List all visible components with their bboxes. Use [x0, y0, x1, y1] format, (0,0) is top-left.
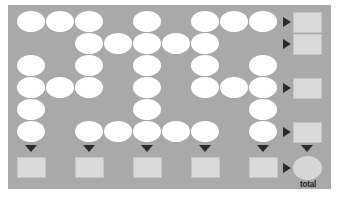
column-output-box [17, 157, 46, 178]
grid-oval [17, 55, 45, 76]
grid-oval [162, 121, 190, 142]
down-arrow-icon [199, 145, 211, 152]
column-output-box [75, 157, 104, 178]
row-output-box [293, 34, 322, 55]
total-oval [293, 156, 322, 180]
down-arrow-icon [83, 145, 95, 152]
grid-oval [17, 121, 45, 142]
grid-oval [249, 11, 277, 32]
right-arrow-icon [283, 163, 291, 173]
right-arrow-icon [283, 83, 291, 93]
down-arrow-icon [25, 145, 37, 152]
grid-oval [249, 99, 277, 120]
right-arrow-icon [283, 17, 291, 27]
grid-oval [17, 11, 45, 32]
grid-oval [75, 77, 103, 98]
grid-oval [191, 33, 219, 54]
down-arrow-icon [301, 145, 313, 152]
grid-oval [133, 55, 161, 76]
grid-oval [75, 121, 103, 142]
column-output-box [133, 157, 162, 178]
grid-oval [162, 33, 190, 54]
grid-oval [191, 121, 219, 142]
grid-oval [191, 77, 219, 98]
grid-oval [133, 11, 161, 32]
column-output-box [249, 157, 278, 178]
grid-oval [75, 33, 103, 54]
grid-oval [133, 33, 161, 54]
total-label: total [292, 179, 324, 189]
grid-oval [220, 77, 248, 98]
grid-oval [46, 77, 74, 98]
grid-oval [191, 11, 219, 32]
grid-oval [46, 11, 74, 32]
grid-oval [104, 33, 132, 54]
grid-oval [104, 121, 132, 142]
grid-oval [75, 11, 103, 32]
grid-oval [249, 55, 277, 76]
down-arrow-icon [257, 145, 269, 152]
right-arrow-icon [283, 127, 291, 137]
grid-oval [75, 55, 103, 76]
grid-oval [249, 121, 277, 142]
grid-oval [191, 55, 219, 76]
row-output-box [293, 122, 322, 143]
grid-oval [249, 77, 277, 98]
row-output-box [293, 12, 322, 33]
grid-oval [133, 77, 161, 98]
down-arrow-icon [141, 145, 153, 152]
grid-oval [17, 77, 45, 98]
grid-oval [220, 11, 248, 32]
grid-oval [17, 99, 45, 120]
right-arrow-icon [283, 39, 291, 49]
grid-oval [133, 99, 161, 120]
row-output-box [293, 78, 322, 99]
column-output-box [191, 157, 220, 178]
grid-oval [133, 121, 161, 142]
